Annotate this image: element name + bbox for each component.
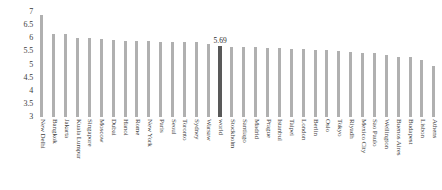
bar[interactable]	[100, 39, 103, 117]
bar[interactable]	[159, 42, 162, 117]
x-label-slot: world	[214, 119, 226, 190]
bar[interactable]	[397, 57, 400, 117]
x-axis-label: Lisbon	[418, 119, 425, 138]
x-label-slot: Santiago	[238, 119, 250, 190]
bar[interactable]	[207, 44, 210, 118]
x-axis-label: New York	[145, 119, 152, 147]
bar[interactable]	[230, 47, 233, 117]
x-label-slot: Moscow	[95, 119, 107, 190]
bar[interactable]	[135, 41, 138, 117]
x-label-slot: Warsaw	[202, 119, 214, 190]
bar-slot	[202, 12, 214, 117]
bar[interactable]	[242, 47, 245, 117]
bar[interactable]	[361, 53, 364, 117]
bar-highlight[interactable]	[218, 46, 222, 117]
x-axis-label: Santiago	[240, 119, 247, 143]
bar[interactable]	[302, 49, 305, 117]
x-axis-label: Paris	[157, 119, 164, 133]
bar[interactable]	[52, 34, 55, 117]
y-axis-tick: 7	[29, 8, 33, 16]
x-label-slot: Berlin	[309, 119, 321, 190]
x-axis-label: Taipei	[288, 119, 295, 136]
bar[interactable]	[420, 60, 423, 117]
bar-slot	[190, 12, 202, 117]
bar[interactable]	[349, 52, 352, 117]
x-label-slot: Rome	[131, 119, 143, 190]
bar[interactable]	[254, 47, 257, 117]
bar[interactable]	[409, 57, 412, 117]
y-axis-tick: 6.5	[24, 21, 33, 29]
x-axis-label: Istanbul	[276, 119, 283, 141]
x-label-slot: Wellington	[380, 119, 392, 190]
bar-slot	[297, 12, 309, 117]
x-axis-label: world	[217, 119, 224, 135]
bar-slot	[119, 12, 131, 117]
x-axis-label: Rome	[133, 119, 140, 135]
bar[interactable]	[432, 66, 435, 117]
bar[interactable]	[64, 34, 67, 117]
bar[interactable]	[385, 55, 388, 117]
bar-slot	[321, 12, 333, 117]
bar-slot	[369, 12, 381, 117]
x-axis-label: Berlin	[312, 119, 319, 136]
x-label-slot: Madrid	[250, 119, 262, 190]
y-axis-tick: 6	[29, 34, 33, 42]
bar[interactable]	[124, 41, 127, 117]
bar-value-label: 5.69	[214, 37, 227, 45]
bar[interactable]	[147, 41, 150, 117]
x-axis-label: Sao Paulo	[371, 119, 378, 146]
x-label-slot: Oslo	[321, 119, 333, 190]
x-label-slot: Lisbon	[416, 119, 428, 190]
x-label-slot: Kuala Lumpur	[72, 119, 84, 190]
bar[interactable]	[325, 50, 328, 117]
bar-slot	[167, 12, 179, 117]
y-axis-tick: 4.5	[24, 74, 33, 82]
bar[interactable]	[337, 51, 340, 117]
x-axis-label: Kuala Lumpur	[74, 119, 81, 159]
bar-slot	[238, 12, 250, 117]
bar-slot	[250, 12, 262, 117]
x-axis-label: Oslo	[323, 119, 330, 132]
x-label-slot: Paris	[155, 119, 167, 190]
bar[interactable]	[290, 49, 293, 117]
x-axis-label: Riyadh	[347, 119, 354, 139]
bar-slot	[143, 12, 155, 117]
x-axis-label: New Delhi	[38, 119, 45, 149]
bar[interactable]	[314, 50, 317, 117]
x-label-slot: New York	[143, 119, 155, 190]
bar[interactable]	[373, 53, 376, 117]
x-axis-label: Tokyo	[335, 119, 342, 136]
x-axis-label: Madrid	[252, 119, 259, 139]
bar-slot	[48, 12, 60, 117]
bar[interactable]	[266, 48, 269, 117]
x-label-slot: Bangkok	[48, 119, 60, 190]
bar[interactable]	[40, 15, 43, 117]
x-axis-label: Budapest	[407, 119, 414, 144]
x-axis-label: Sydney	[193, 119, 200, 139]
bar-slot	[274, 12, 286, 117]
bar-slot	[309, 12, 321, 117]
bar-slot	[333, 12, 345, 117]
bar[interactable]	[76, 38, 79, 117]
bar[interactable]	[112, 40, 115, 117]
x-axis-label: Mexico City	[359, 119, 366, 153]
x-axis-label: Athens	[430, 119, 437, 138]
x-label-slot: Jakarta	[60, 119, 72, 190]
bar-slot	[428, 12, 440, 117]
x-axis-label: Stockholm	[228, 119, 235, 148]
y-axis-tick: 5	[29, 61, 33, 69]
bar[interactable]	[88, 38, 91, 117]
bar[interactable]	[278, 48, 281, 117]
bar-slot	[107, 12, 119, 117]
x-label-slot: Budapest	[404, 119, 416, 190]
plot-area: 5.69	[36, 12, 440, 117]
bar[interactable]	[183, 42, 186, 117]
bar-slot	[84, 12, 96, 117]
bar[interactable]	[171, 42, 174, 117]
x-axis-labels: New DelhiBangkokJakartaKuala LumpurSinga…	[36, 119, 440, 190]
x-label-slot: Stockholm	[226, 119, 238, 190]
bar[interactable]	[195, 42, 198, 117]
x-axis-label: Moscow	[98, 119, 105, 143]
x-label-slot: Tokyo	[333, 119, 345, 190]
x-axis-label: Dubai	[110, 119, 117, 136]
